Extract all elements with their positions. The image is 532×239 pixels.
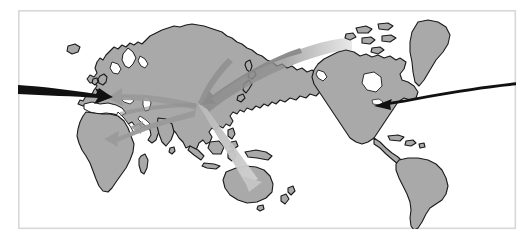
tasmania (257, 205, 264, 211)
cuba (388, 135, 404, 141)
world-map-canvas (0, 0, 532, 239)
iceland (67, 44, 80, 54)
caribbean-small (419, 143, 425, 148)
world-map-figure (0, 0, 532, 239)
